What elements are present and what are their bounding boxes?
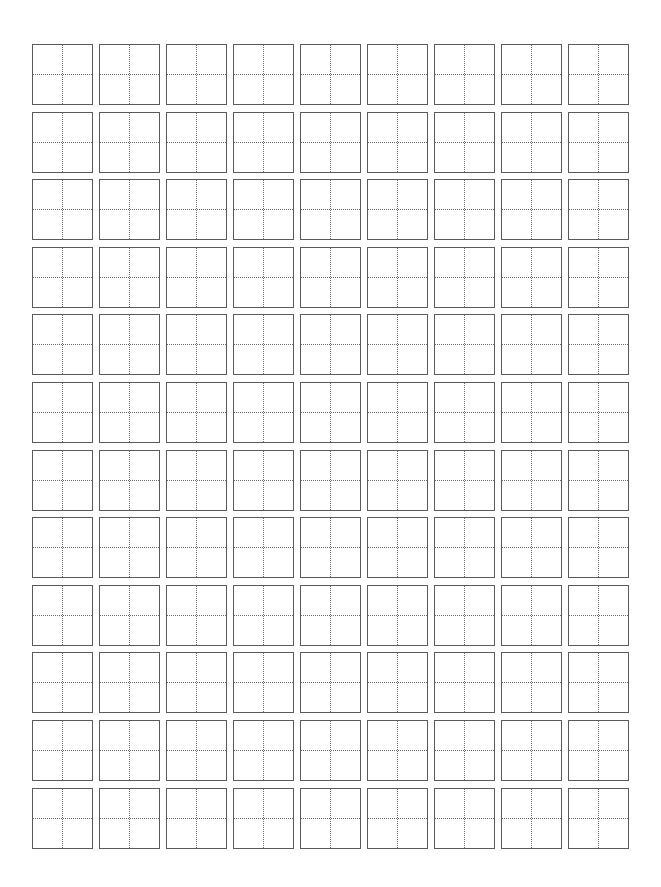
practice-cell[interactable] [501,179,562,240]
practice-cell[interactable] [367,788,428,849]
practice-cell[interactable] [367,652,428,713]
practice-cell[interactable] [568,179,629,240]
practice-cell[interactable] [367,585,428,646]
practice-cell[interactable] [501,788,562,849]
practice-cell[interactable] [300,652,361,713]
practice-cell[interactable] [434,44,495,105]
practice-cell[interactable] [233,517,294,578]
practice-cell[interactable] [568,44,629,105]
practice-cell[interactable] [300,788,361,849]
practice-cell[interactable] [300,450,361,511]
practice-cell[interactable] [166,247,227,308]
practice-cell[interactable] [233,720,294,781]
practice-cell[interactable] [32,652,93,713]
practice-cell[interactable] [233,382,294,443]
practice-cell[interactable] [233,314,294,375]
practice-cell[interactable] [166,314,227,375]
practice-cell[interactable] [99,112,160,173]
practice-cell[interactable] [434,314,495,375]
practice-cell[interactable] [434,720,495,781]
practice-cell[interactable] [166,720,227,781]
practice-cell[interactable] [32,44,93,105]
practice-cell[interactable] [501,720,562,781]
practice-cell[interactable] [300,585,361,646]
practice-cell[interactable] [32,720,93,781]
practice-cell[interactable] [568,788,629,849]
practice-cell[interactable] [99,247,160,308]
practice-cell[interactable] [434,652,495,713]
practice-cell[interactable] [233,788,294,849]
practice-cell[interactable] [367,112,428,173]
practice-cell[interactable] [32,517,93,578]
practice-cell[interactable] [166,112,227,173]
practice-cell[interactable] [32,179,93,240]
practice-cell[interactable] [99,720,160,781]
practice-cell[interactable] [501,44,562,105]
practice-cell[interactable] [32,585,93,646]
practice-cell[interactable] [300,112,361,173]
practice-cell[interactable] [434,179,495,240]
practice-cell[interactable] [434,517,495,578]
practice-cell[interactable] [300,44,361,105]
practice-cell[interactable] [300,314,361,375]
practice-cell[interactable] [501,450,562,511]
practice-cell[interactable] [501,652,562,713]
practice-cell[interactable] [233,179,294,240]
practice-cell[interactable] [568,112,629,173]
practice-cell[interactable] [233,652,294,713]
practice-cell[interactable] [99,788,160,849]
practice-cell[interactable] [501,517,562,578]
practice-cell[interactable] [300,517,361,578]
practice-cell[interactable] [434,788,495,849]
practice-cell[interactable] [367,517,428,578]
practice-cell[interactable] [367,179,428,240]
practice-cell[interactable] [166,585,227,646]
practice-cell[interactable] [568,585,629,646]
practice-cell[interactable] [501,314,562,375]
practice-cell[interactable] [32,247,93,308]
practice-cell[interactable] [99,585,160,646]
practice-cell[interactable] [434,382,495,443]
practice-cell[interactable] [367,247,428,308]
practice-cell[interactable] [166,517,227,578]
practice-cell[interactable] [367,450,428,511]
practice-cell[interactable] [367,314,428,375]
practice-cell[interactable] [367,720,428,781]
practice-cell[interactable] [434,450,495,511]
practice-cell[interactable] [32,450,93,511]
practice-cell[interactable] [233,450,294,511]
practice-cell[interactable] [300,247,361,308]
practice-cell[interactable] [32,382,93,443]
practice-cell[interactable] [434,112,495,173]
practice-cell[interactable] [166,652,227,713]
practice-cell[interactable] [434,247,495,308]
practice-cell[interactable] [99,450,160,511]
practice-cell[interactable] [501,382,562,443]
practice-cell[interactable] [166,788,227,849]
practice-cell[interactable] [166,44,227,105]
practice-cell[interactable] [568,247,629,308]
practice-cell[interactable] [166,382,227,443]
practice-cell[interactable] [501,112,562,173]
practice-cell[interactable] [568,314,629,375]
practice-cell[interactable] [300,720,361,781]
practice-cell[interactable] [233,247,294,308]
practice-cell[interactable] [166,450,227,511]
practice-cell[interactable] [501,247,562,308]
practice-cell[interactable] [32,112,93,173]
practice-cell[interactable] [99,314,160,375]
practice-cell[interactable] [300,382,361,443]
practice-cell[interactable] [501,585,562,646]
practice-cell[interactable] [99,382,160,443]
practice-cell[interactable] [568,517,629,578]
practice-cell[interactable] [233,112,294,173]
practice-cell[interactable] [568,450,629,511]
practice-cell[interactable] [434,585,495,646]
practice-cell[interactable] [166,179,227,240]
practice-cell[interactable] [32,788,93,849]
practice-cell[interactable] [32,314,93,375]
practice-cell[interactable] [568,652,629,713]
practice-cell[interactable] [233,44,294,105]
practice-cell[interactable] [568,382,629,443]
practice-cell[interactable] [99,44,160,105]
